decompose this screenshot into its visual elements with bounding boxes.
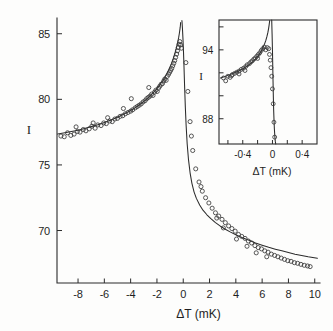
x-tick-label: 6 <box>259 288 265 300</box>
data-point <box>204 196 208 200</box>
x-tick-label: 2 <box>207 288 213 300</box>
data-point <box>200 189 204 193</box>
data-point <box>186 89 190 93</box>
data-point <box>184 61 188 65</box>
main-y-tick-labels: 70758085 <box>38 28 50 237</box>
data-point <box>121 106 125 110</box>
inset-x-tick-label: -0·4 <box>234 149 252 160</box>
data-point <box>74 125 78 129</box>
x-tick-label: 10 <box>309 288 321 300</box>
data-point <box>172 61 176 65</box>
x-axis-title: ΔT (mK) <box>176 307 220 321</box>
x-tick-label: 4 <box>233 288 239 300</box>
inset-plot: -0·400·4 8894 ΔT (mK) I <box>199 20 317 177</box>
data-point <box>188 120 192 124</box>
y-tick-label: 70 <box>38 225 50 237</box>
main-x-tick-labels: -8-6-4-20246810 <box>73 288 320 300</box>
inset-x-axis-title: ΔT (mK) <box>253 165 292 177</box>
data-point <box>245 244 249 248</box>
inset-y-tick-label: 88 <box>202 114 213 125</box>
data-point <box>265 255 269 259</box>
data-point <box>233 229 237 233</box>
data-point <box>210 206 214 210</box>
data-point <box>254 251 258 255</box>
x-tick-label: -4 <box>126 288 135 300</box>
y-axis-title: I <box>27 122 31 137</box>
inset-frame <box>219 20 317 144</box>
data-point <box>207 201 211 205</box>
data-point <box>199 185 203 189</box>
inset-y-tick-label: 94 <box>202 45 213 56</box>
data-point <box>191 148 195 152</box>
x-tick-label: 8 <box>285 288 291 300</box>
inset-x-tick-label: 0 <box>270 149 276 160</box>
x-tick-label: -6 <box>100 288 109 300</box>
data-point <box>234 237 238 241</box>
x-tick-label: -8 <box>73 288 82 300</box>
y-tick-label: 85 <box>38 28 50 40</box>
data-point <box>171 64 175 68</box>
data-point <box>194 167 198 171</box>
main-y-ticks <box>57 34 62 231</box>
data-point <box>220 217 224 221</box>
data-point <box>189 134 193 138</box>
y-tick-label: 80 <box>38 93 50 105</box>
x-tick-label: -2 <box>152 288 161 300</box>
data-point <box>106 116 110 120</box>
main-x-ticks <box>78 279 315 284</box>
inset-y-axis-title: I <box>199 70 203 82</box>
x-tick-label: 0 <box>180 288 186 300</box>
inset-x-tick-label: 0·4 <box>295 149 309 160</box>
data-point <box>308 265 312 269</box>
inset-y-tick-labels: 8894 <box>202 45 213 125</box>
data-point <box>129 97 133 101</box>
data-point <box>147 85 151 89</box>
figure-container: -8-6-4-20246810 70758085 ΔT (mK) I -0·40… <box>0 0 333 331</box>
y-tick-label: 75 <box>38 159 50 171</box>
scientific-plot: -8-6-4-20246810 70758085 ΔT (mK) I -0·40… <box>0 0 333 331</box>
inset-x-tick-labels: -0·400·4 <box>234 149 309 160</box>
data-point <box>213 211 217 215</box>
data-point <box>197 180 201 184</box>
data-point <box>223 221 227 225</box>
